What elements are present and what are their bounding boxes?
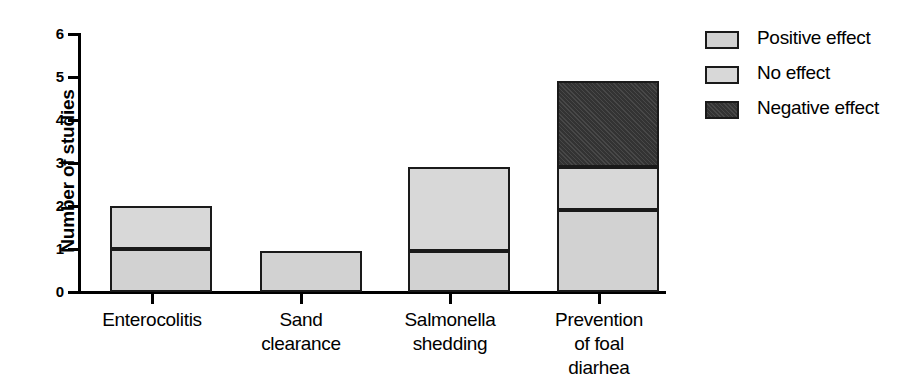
x-tick-mark	[598, 293, 601, 304]
y-tick-label-text: 4	[42, 112, 64, 127]
legend-swatch	[705, 31, 739, 49]
y-tick-mark	[68, 248, 79, 251]
x-category-label-line: Salmonella	[370, 308, 530, 332]
x-category-label: Preventionof foaldiarhea	[519, 308, 679, 380]
x-category-label: Sandclearance	[221, 308, 381, 356]
x-category-label: Salmonellashedding	[370, 308, 530, 356]
y-tick-mark	[68, 291, 79, 294]
y-tick-mark	[68, 119, 79, 122]
bar-segment	[557, 167, 659, 210]
y-tick-label: 6	[40, 26, 64, 40]
y-tick-label: 4	[40, 112, 64, 126]
y-tick-label: 1	[40, 241, 64, 255]
bar-segment	[408, 167, 510, 251]
legend-label: No effect	[757, 62, 830, 84]
legend-label: Positive effect	[757, 27, 870, 49]
x-category-label-line: Prevention	[519, 308, 679, 332]
x-category-label-line: Enterocolitis	[72, 308, 232, 332]
x-category-label: Enterocolitis	[72, 308, 232, 332]
bar-segment	[260, 251, 362, 292]
y-tick-label: 2	[40, 198, 64, 212]
legend-swatch	[705, 66, 739, 84]
y-tick-label-text: 2	[42, 198, 64, 213]
legend-swatch	[705, 101, 739, 119]
x-category-label-line: Sand	[221, 308, 381, 332]
y-tick-label: 5	[40, 69, 64, 83]
x-category-label-line: shedding	[370, 332, 530, 356]
x-category-label-line: of foal	[519, 332, 679, 356]
x-tick-mark	[151, 293, 154, 304]
bar-segment	[408, 251, 510, 292]
y-tick-label-text: 6	[42, 26, 64, 41]
bar-segment	[110, 206, 212, 249]
bar-segment	[110, 249, 212, 292]
y-tick-label: 0	[40, 284, 64, 298]
x-category-label-line: clearance	[221, 332, 381, 356]
y-tick-label: 3	[40, 155, 64, 169]
legend-label: Negative effect	[757, 97, 879, 119]
x-tick-mark	[300, 293, 303, 304]
y-tick-label-text: 1	[42, 241, 64, 256]
chart-figure: Number of studies 0123456 EnterocolitisS…	[0, 0, 914, 392]
x-tick-mark	[449, 293, 452, 304]
y-tick-mark	[68, 33, 79, 36]
bar-segment	[557, 81, 659, 167]
y-tick-label-text: 0	[42, 284, 64, 299]
y-tick-label-text: 3	[42, 155, 64, 170]
bar-segment	[557, 210, 659, 292]
y-tick-mark	[68, 76, 79, 79]
y-tick-label-text: 5	[42, 69, 64, 84]
y-tick-mark	[68, 205, 79, 208]
x-category-label-line: diarhea	[519, 356, 679, 380]
y-tick-mark	[68, 162, 79, 165]
